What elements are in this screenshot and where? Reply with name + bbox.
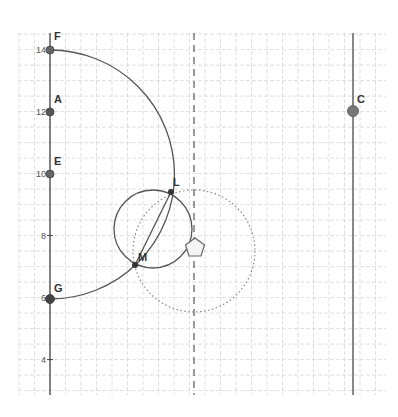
y-tick-label: 8 bbox=[41, 231, 46, 241]
grid bbox=[18, 33, 386, 395]
point-c-label: C bbox=[357, 93, 365, 105]
y-tick-label: 14 bbox=[36, 45, 46, 55]
pentagon[interactable] bbox=[186, 238, 205, 256]
y-tick-label: 12 bbox=[36, 107, 46, 117]
y-tick-label: 10 bbox=[36, 169, 46, 179]
point-m-label: M bbox=[138, 251, 147, 263]
y-tick-label: 4 bbox=[41, 355, 46, 365]
point-g-label: G bbox=[54, 282, 63, 294]
point-a-label: A bbox=[54, 93, 62, 105]
graphics-view[interactable]: 141210864 F A E G bbox=[0, 0, 398, 417]
point-g[interactable]: G bbox=[46, 282, 63, 304]
point-f-label: F bbox=[54, 30, 61, 42]
point-e-label: E bbox=[54, 155, 61, 167]
point-c[interactable]: C bbox=[348, 93, 366, 117]
point-l-label: L bbox=[173, 176, 180, 188]
